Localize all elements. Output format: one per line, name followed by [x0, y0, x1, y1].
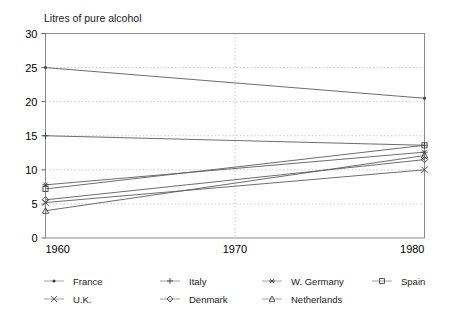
chart-legend: FranceItalyW. GermanySpainU.K.DenmarkNet… — [44, 276, 425, 305]
legend-item-u-k-[interactable]: U.K. — [44, 294, 91, 305]
legend-item-netherlands[interactable]: Netherlands — [262, 294, 342, 305]
legend-item-spain[interactable]: Spain — [372, 276, 425, 287]
marker-dot — [423, 97, 426, 100]
line-chart-figure: Litres of pure alcohol 302520151050 1960… — [0, 0, 473, 315]
legend-label: U.K. — [73, 294, 91, 305]
y-tick-label-20: 20 — [25, 96, 37, 108]
legend-item-italy[interactable]: Italy — [160, 276, 207, 287]
y-tick-label-5: 5 — [31, 198, 37, 210]
gridlines — [46, 34, 425, 239]
legend-label: Netherlands — [291, 294, 342, 305]
marker-dot — [53, 280, 56, 283]
x-tick-label-1960: 1960 — [46, 243, 70, 255]
legend-item-france[interactable]: France — [44, 276, 103, 287]
legend-label: Italy — [189, 276, 207, 287]
legend-item-denmark[interactable]: Denmark — [160, 294, 228, 305]
marker-dot — [44, 66, 47, 69]
marker-asterisk — [269, 279, 275, 283]
y-tick-label-30: 30 — [25, 28, 37, 40]
x-tick-label-1980: 1980 — [400, 243, 424, 255]
legend-label: Denmark — [189, 294, 228, 305]
legend-item-w-germany[interactable]: W. Germany — [262, 276, 344, 287]
legend-label: France — [73, 276, 103, 287]
marker-plus — [42, 133, 48, 139]
y-tick-label-25: 25 — [25, 62, 37, 74]
y-tick-label-10: 10 — [25, 164, 37, 176]
chart-axis-title: Litres of pure alcohol — [44, 12, 141, 24]
marker-plus — [167, 278, 173, 284]
x-axis-ticks: 196019701980 — [46, 243, 425, 255]
series-line-italy — [46, 136, 425, 146]
y-tick-label-15: 15 — [25, 130, 37, 142]
series-line-france — [46, 68, 425, 99]
x-tick-label-1970: 1970 — [223, 243, 247, 255]
legend-label: W. Germany — [291, 276, 344, 287]
legend-label: Spain — [401, 276, 425, 287]
y-tick-label-0: 0 — [31, 232, 37, 244]
